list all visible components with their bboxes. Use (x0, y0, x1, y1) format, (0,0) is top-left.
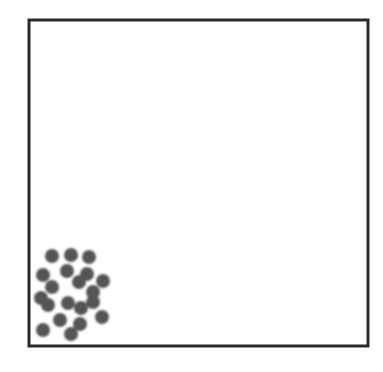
particle (95, 310, 109, 324)
particle (53, 313, 67, 327)
particle-diagram (0, 0, 383, 372)
particle (74, 301, 88, 315)
particle (36, 268, 50, 282)
particle (36, 323, 50, 337)
particle (61, 296, 75, 310)
particle (72, 275, 86, 289)
particle (45, 249, 59, 263)
particle (64, 248, 78, 262)
particle (82, 250, 96, 264)
particle (64, 327, 78, 341)
particle (45, 280, 59, 294)
particle (41, 298, 55, 312)
particle (96, 274, 110, 288)
particle (86, 295, 100, 309)
particle (60, 264, 74, 278)
